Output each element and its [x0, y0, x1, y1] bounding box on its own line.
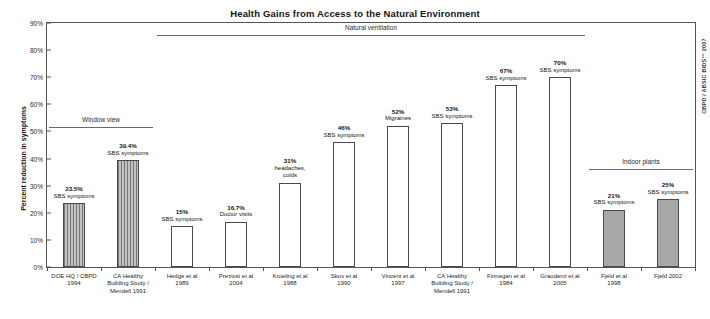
- x-axis-label: Skov et al1990: [331, 273, 357, 288]
- x-axis-label-line: 1990: [331, 280, 357, 287]
- bar[interactable]: [63, 203, 85, 267]
- y-tick-mark: [47, 23, 51, 24]
- y-tick-mark: [47, 185, 51, 186]
- x-tick-mark: [641, 267, 642, 271]
- x-axis-label-line: 1988: [272, 280, 307, 287]
- x-axis-label-line: Fjeld et al: [601, 273, 627, 280]
- group-bracket: [49, 127, 153, 128]
- x-axis-label: Graudenz et al2005: [540, 273, 579, 288]
- bar-description: headaches,: [274, 165, 305, 173]
- bar[interactable]: [441, 123, 463, 267]
- bar-value-label: 15%SBS symptoms: [161, 208, 202, 223]
- plot-area: 0%10%20%30%40%50%60%70%80%90%23.5%SBS sy…: [46, 22, 696, 268]
- bar-value-label: 25%SBS symptoms: [647, 181, 688, 196]
- bar-description: SBS symptoms: [107, 150, 148, 158]
- bar-percent: 39.4%: [107, 142, 148, 150]
- y-tick-mark: [47, 50, 51, 51]
- bar-value-label: 21%SBS symptoms: [593, 192, 634, 207]
- bar[interactable]: [657, 199, 679, 267]
- bar-percent: 46%: [323, 124, 364, 132]
- y-tick-label: 30%: [30, 182, 43, 189]
- x-axis-label: Preziosi et al2004: [219, 273, 253, 288]
- x-axis-label-line: Skov et al: [331, 273, 357, 280]
- x-axis-label: Fjeld et al1998: [601, 273, 627, 288]
- bar-value-label: 31%headaches,colds: [274, 157, 305, 180]
- x-axis-label-line: Vincent et al: [382, 273, 415, 280]
- bar-percent: 25%: [647, 181, 688, 189]
- y-tick-mark: [47, 239, 51, 240]
- x-tick-mark: [263, 267, 264, 271]
- x-tick-mark: [155, 267, 156, 271]
- bar-description: SBS symptoms: [485, 75, 526, 83]
- x-axis-label-line: Graudenz et al: [540, 273, 579, 280]
- x-axis-label-line: Finnegan et al: [487, 273, 525, 280]
- bar[interactable]: [495, 85, 517, 267]
- bar-value-label: 46%SBS symptoms: [323, 124, 364, 139]
- bar-percent: 52%: [385, 108, 411, 116]
- x-axis-label: Hedge et al1989: [167, 273, 198, 288]
- bar-description: colds: [274, 172, 305, 180]
- bar-description: Migraines: [385, 115, 411, 123]
- y-tick-label: 90%: [30, 20, 43, 27]
- x-axis-label: Fjeld 2002: [654, 273, 682, 280]
- x-axis-label-line: Building Study /: [431, 280, 473, 287]
- y-tick-mark: [47, 158, 51, 159]
- bar[interactable]: [279, 183, 301, 267]
- x-axis-label-line: 1994: [51, 280, 96, 287]
- group-label: Indoor plants: [622, 158, 660, 165]
- group-bracket: [157, 35, 585, 36]
- y-tick-label: 60%: [30, 101, 43, 108]
- chart-title: Health Gains from Access to the Natural …: [0, 8, 710, 19]
- x-axis-label-line: Hedge et al: [167, 273, 198, 280]
- y-tick-label: 80%: [30, 47, 43, 54]
- bar[interactable]: [225, 222, 247, 267]
- x-axis-label-line: 2004: [219, 280, 253, 287]
- bar-description: SBS symptoms: [593, 199, 634, 207]
- y-tick-label: 0%: [34, 264, 43, 271]
- x-axis-label-line: CA Healthy: [107, 273, 149, 280]
- x-axis-label-line: DOE HQ / CBPD: [51, 273, 96, 280]
- bar-description: SBS symptoms: [431, 113, 472, 121]
- bar-percent: 21%: [593, 192, 634, 200]
- bar-percent: 67%: [485, 67, 526, 75]
- bar-percent: 53%: [431, 105, 472, 113]
- y-tick-mark: [47, 131, 51, 132]
- x-axis-label-line: Fjeld 2002: [654, 273, 682, 280]
- x-tick-mark: [425, 267, 426, 271]
- x-tick-mark: [371, 267, 372, 271]
- bar-value-label: 16.7%Doctor visits: [220, 204, 253, 219]
- bar-percent: 23.5%: [53, 185, 94, 193]
- y-tick-label: 20%: [30, 209, 43, 216]
- x-axis-label-line: 1989: [167, 280, 198, 287]
- x-tick-mark: [533, 267, 534, 271]
- y-axis-label: Percent reduction in symptoms: [20, 79, 27, 239]
- x-axis-label-line: Mendell 1991: [107, 288, 149, 295]
- x-axis-label-line: Kroeling et al: [272, 273, 307, 280]
- group-label: Natural ventilation: [345, 24, 397, 31]
- x-axis-label-line: Mendell 1991: [431, 288, 473, 295]
- y-tick-label: 40%: [30, 155, 43, 162]
- y-tick-label: 70%: [30, 74, 43, 81]
- y-tick-label: 10%: [30, 236, 43, 243]
- bar[interactable]: [117, 160, 139, 267]
- bar-percent: 31%: [274, 157, 305, 165]
- x-axis-label-line: 1998: [601, 280, 627, 287]
- bar[interactable]: [603, 210, 625, 267]
- x-axis-label: Finnegan et al1984: [487, 273, 525, 288]
- bar-percent: 16.7%: [220, 204, 253, 212]
- bar[interactable]: [171, 226, 193, 267]
- x-axis-label-line: CA Healthy: [431, 273, 473, 280]
- bar-percent: 70%: [539, 59, 580, 67]
- bar[interactable]: [549, 77, 571, 267]
- bar[interactable]: [333, 142, 355, 267]
- x-axis-label-line: Building Study /: [107, 280, 149, 287]
- group-bracket: [589, 169, 693, 170]
- bar-description: Doctor visits: [220, 211, 253, 219]
- x-axis-label: Kroeling et al1988: [272, 273, 307, 288]
- chart-figure: Health Gains from Access to the Natural …: [0, 0, 710, 319]
- x-tick-mark: [479, 267, 480, 271]
- x-axis-label-line: 1984: [487, 280, 525, 287]
- x-tick-mark: [587, 267, 588, 271]
- bar[interactable]: [387, 126, 409, 267]
- x-axis-label: CA HealthyBuilding Study /Mendell 1991: [107, 273, 149, 295]
